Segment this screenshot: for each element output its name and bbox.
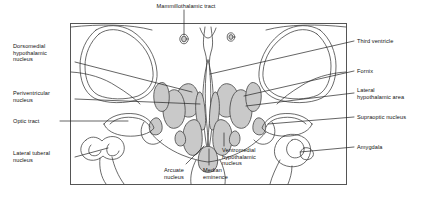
amygdala-outline: [274, 134, 310, 167]
accessory-nucleus-right: [229, 131, 240, 146]
label-supraoptic-nucleus: Supraoptic nucleus: [357, 114, 427, 121]
accessory-nucleus-left: [175, 131, 186, 146]
label-arcuate-nucleus: Arcuate nucleus: [164, 167, 204, 180]
leader-third-ventricle: [210, 41, 354, 74]
left-temporal-lobe-contour: [112, 157, 124, 184]
amygdala-small-lobe: [300, 148, 313, 160]
label-median-eminence: Median eminence: [203, 167, 245, 180]
third-ventricle-cleft-top: [200, 28, 216, 38]
right-hemisphere-curve: [277, 72, 346, 104]
supraoptic-nucleus-shade-right: [253, 118, 266, 135]
lateral-area-small-nucleus-left: [154, 82, 170, 111]
lateral-tuberal-nucleus-outline: [81, 137, 124, 161]
label-lateral-tuberal-nucleus: Lateral tuberal nucleus: [13, 150, 75, 163]
lateral-area-small-nucleus-right: [246, 82, 262, 111]
label-third-ventricle: Third ventricle: [357, 38, 425, 45]
label-dorsomedial-hypothalamic-nucleus: Dorsomedial hypothalamic nucleus: [13, 43, 73, 63]
label-optic-tract: Optic tract: [13, 118, 73, 125]
label-amygdala: Amygdala: [357, 144, 425, 151]
mammillothalamic-tract-left-oval-inner: [182, 36, 187, 42]
label-periventricular-nucleus: Periventricular nucleus: [13, 90, 75, 103]
right-temporal-lobe-contour-outer: [288, 166, 292, 184]
mammillothalamic-tract-right-oval-inner: [229, 35, 233, 40]
label-fornix: Fornix: [357, 68, 425, 75]
label-mammillothalamic-tract: Mammillothalamic tract: [126, 3, 246, 10]
supraoptic-nucleus-shade-left: [149, 118, 162, 135]
lateral-tuberal-nucleus-inner-2: [107, 144, 119, 156]
left-temporal-lobe-contour-outer: [100, 158, 106, 184]
right-temporal-lobe-contour: [270, 160, 280, 184]
amygdala-inner-lobe: [287, 139, 304, 158]
label-ventromedial-hypothalamic-nucleus: Ventromedial hypothalamic nucleus: [222, 147, 270, 167]
label-lateral-hypothalamic-area: Lateral hypothalamic area: [357, 87, 427, 100]
leader-lateral-hypothalamic-area: [246, 93, 354, 106]
leader-dorsomedial-nucleus: [75, 62, 192, 92]
